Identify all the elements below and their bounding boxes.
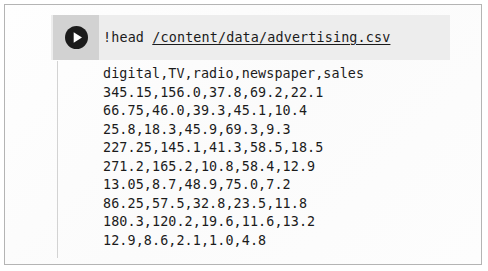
output-left-rule <box>57 61 58 258</box>
output-line: 180.3,120.2,19.6,11.6,13.2 <box>103 213 448 232</box>
output-line: 86.25,57.5,32.8,23.5,11.8 <box>103 195 448 214</box>
output-line: 227.25,145.1,41.3,58.5,18.5 <box>103 139 448 158</box>
output-line: 25.8,18.3,45.9,69.3,9.3 <box>103 121 448 140</box>
code-input-line[interactable]: !head /content/data/advertising.csv <box>103 26 390 50</box>
output-line: 345.15,156.0,37.8,69.2,22.1 <box>103 84 448 103</box>
shell-command-text: !head <box>103 30 152 45</box>
output-line: digital,TV,radio,newspaper,sales <box>103 65 448 84</box>
cell-output: digital,TV,radio,newspaper,sales 345.15,… <box>103 65 448 250</box>
run-cell-button[interactable] <box>53 15 99 60</box>
output-line: 66.75,46.0,39.3,45.1,10.4 <box>103 102 448 121</box>
output-line: 13.05,8.7,48.9,75.0,7.2 <box>103 176 448 195</box>
file-path-link[interactable]: /content/data/advertising.csv <box>152 30 390 45</box>
output-line: 12.9,8.6,2.1,1.0,4.8 <box>103 232 448 251</box>
notebook-code-cell: !head /content/data/advertising.csv digi… <box>51 11 455 261</box>
play-icon <box>64 25 89 50</box>
scanned-page-frame: !head /content/data/advertising.csv digi… <box>4 4 482 265</box>
output-line: 271.2,165.2,10.8,58.4,12.9 <box>103 158 448 177</box>
